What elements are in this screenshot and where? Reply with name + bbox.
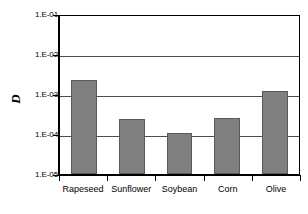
bars-group (60, 16, 299, 174)
x-axis-line (58, 175, 301, 176)
plot-area (59, 15, 300, 175)
y-axis-tick-label: 1.E-05 (18, 171, 58, 179)
y-axis-tick-mark (53, 95, 59, 96)
x-axis-tick-label: Soybean (155, 184, 203, 204)
y-axis-tick-labels: 1.E-011.E-021.E-031.E-041.E-05 (18, 15, 58, 175)
x-axis-tick-label: Olive (252, 184, 300, 204)
bar-slot (203, 16, 251, 174)
bar-slot (108, 16, 156, 174)
y-axis-tick-mark (53, 55, 59, 56)
bar (214, 118, 240, 174)
bar (262, 91, 288, 174)
bar (167, 133, 193, 174)
x-axis-tick-mark (59, 176, 60, 181)
x-axis-tick-mark (155, 176, 156, 181)
x-axis-tick-mark (204, 176, 205, 181)
x-axis-tick-labels: RapeseedSunflowerSoybeanCornOlive (59, 184, 300, 204)
y-axis-tick-mark (53, 15, 59, 16)
y-axis-tick-label: 1.E-03 (18, 91, 58, 99)
bar-slot (251, 16, 299, 174)
bar (119, 119, 145, 174)
bar-chart: D 1.E-011.E-021.E-031.E-041.E-05 Rapesee… (0, 0, 308, 214)
y-axis-tick-label: 1.E-04 (18, 131, 58, 139)
y-axis-tick-label: 1.E-02 (18, 51, 58, 59)
bar-slot (156, 16, 204, 174)
x-axis-tick-mark (300, 176, 301, 181)
x-axis-tick-mark (252, 176, 253, 181)
x-axis-tick-label: Corn (204, 184, 252, 204)
x-axis-tick-label: Rapeseed (59, 184, 107, 204)
x-axis-tick-mark (107, 176, 108, 181)
bar (71, 80, 97, 174)
x-axis-tick-label: Sunflower (107, 184, 155, 204)
bar-slot (60, 16, 108, 174)
y-axis-tick-mark (53, 135, 59, 136)
y-axis-tick-label: 1.E-01 (18, 11, 58, 19)
